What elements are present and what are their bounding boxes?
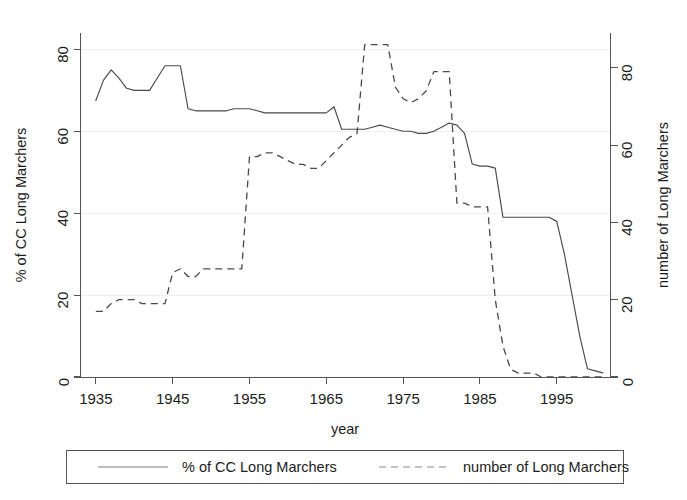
legend-label-number-of-long-marchers: number of Long Marchers — [463, 459, 629, 475]
left-ticklabel-60: 60 — [55, 128, 72, 145]
x-axis-title: year — [331, 421, 359, 437]
x-ticklabel-1945: 1945 — [156, 390, 189, 407]
left-axis-title: % of CC Long Marchers — [13, 128, 29, 283]
long-marchers-line-chart: 020406080 020406080 19351945195519651975… — [0, 0, 687, 500]
right-ticklabel-60: 60 — [619, 142, 636, 159]
right-ticklabel-40: 40 — [619, 219, 636, 236]
x-ticklabel-1975: 1975 — [386, 390, 419, 407]
left-ticklabel-20: 20 — [55, 292, 72, 309]
right-ticklabel-0: 0 — [619, 378, 636, 386]
legend-label-percent-cc-long-marchers: % of CC Long Marchers — [182, 459, 337, 475]
left-ticklabel-0: 0 — [55, 378, 72, 386]
x-ticklabel-1955: 1955 — [233, 390, 266, 407]
x-ticklabel-1995: 1995 — [540, 390, 573, 407]
x-ticklabel-1965: 1965 — [310, 390, 343, 407]
left-ticklabel-40: 40 — [55, 210, 72, 227]
chart-figure: 020406080 020406080 19351945195519651975… — [0, 0, 687, 500]
x-ticklabel-1935: 1935 — [79, 390, 112, 407]
left-ticklabel-80: 80 — [55, 46, 72, 63]
chart-legend: % of CC Long Marchers number of Long Mar… — [67, 451, 630, 484]
right-ticklabel-20: 20 — [619, 296, 636, 313]
right-ticklabel-80: 80 — [619, 64, 636, 81]
right-axis-title: number of Long Marchers — [655, 122, 671, 288]
x-ticklabel-1985: 1985 — [463, 390, 496, 407]
